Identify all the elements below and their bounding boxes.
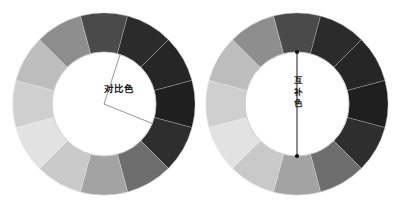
color-wheels-canvas [0,0,401,209]
complement-wheel-endpoint-dot-top [295,154,299,158]
color-wheel-figure: 对比色 互补色 [0,0,401,209]
contrast-wheel-label: 对比色 [104,84,134,94]
contrast-wheel [13,13,195,195]
complement-wheel-label: 互补色 [292,76,302,111]
complement-wheel-endpoint-dot-bottom [295,50,299,54]
